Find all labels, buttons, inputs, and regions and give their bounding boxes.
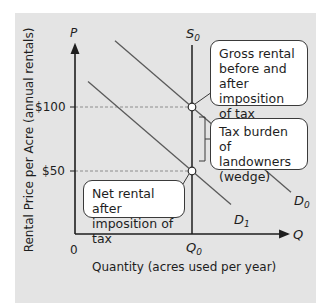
y-tick-label-50: $50 <box>42 164 65 178</box>
net-rental-point <box>188 167 196 175</box>
gross-rental-point <box>188 103 196 111</box>
y-tick-label-100: $100 <box>35 100 66 114</box>
x-axis-label: Quantity (acres used per year) <box>92 260 276 274</box>
x-tick-label-q0: Q0 <box>186 240 202 255</box>
gross-rental-callout: Gross rental before and after imposition… <box>210 40 308 106</box>
y-axis-label: Rental Price per Acre (annual rentals) <box>22 28 36 253</box>
callout-line: of landowners <box>219 139 299 169</box>
callout-line: Tax burden <box>219 124 299 139</box>
callout-line: Gross rental <box>219 46 299 61</box>
callout-line: after imposition <box>219 76 299 106</box>
demand-curve-label-d1: D1 <box>234 212 250 227</box>
callout-line: before and <box>219 61 299 76</box>
tax-burden-callout: Tax burden of landowners (wedge) <box>210 118 308 170</box>
supply-curve-label-s0: S0 <box>186 26 200 41</box>
callout-line: (wedge) <box>219 169 299 184</box>
x-axis-symbol: Q <box>293 227 303 242</box>
wedge-bracket <box>199 117 205 161</box>
callout-line: Net rental after <box>92 186 176 216</box>
net-rental-leader-line <box>183 174 189 184</box>
y-axis-symbol: P <box>70 26 77 40</box>
callout-line: imposition of tax <box>92 216 176 246</box>
demand-curve-label-d0: D0 <box>294 193 310 208</box>
origin-label: 0 <box>70 243 78 257</box>
net-rental-callout: Net rental after imposition of tax <box>83 180 185 218</box>
